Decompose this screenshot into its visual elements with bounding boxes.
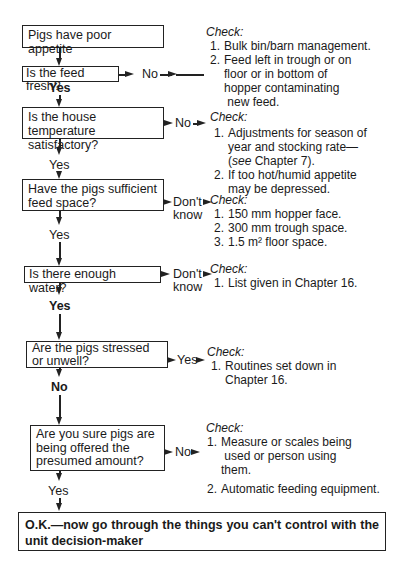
arrow-down-icon: [56, 473, 62, 481]
end-text: O.K.—now go through the things you can't…: [25, 518, 379, 548]
branch-label-no: No: [175, 117, 191, 130]
check-list-q5: Check: 1.Routines set down inChapter 16.: [207, 345, 402, 387]
arrow-right-icon: [196, 357, 205, 363]
check-list-q2: Check: 1.Adjustments for season ofyear a…: [210, 110, 402, 196]
continue-label-yes: Yes: [48, 485, 68, 498]
check-title: Check:: [210, 193, 402, 207]
check-item: 1.Adjustments for season ofyear and stoc…: [210, 126, 402, 168]
branch-label-yes: Yes: [177, 354, 197, 367]
continue-label-yes: Yes: [49, 229, 69, 242]
arrow-down-icon: [56, 217, 62, 225]
start-box: Pigs have poor appetite: [22, 25, 164, 48]
arrow-down-icon: [56, 287, 62, 295]
branch-label-dont-know: Don'tknow: [173, 268, 202, 294]
check-list-q6: Check: 1.Measure or scales being used or…: [203, 421, 403, 496]
arrow-right-icon: [197, 120, 206, 126]
arrow-right-icon: [125, 71, 134, 77]
continue-label-yes: Yes: [49, 300, 71, 313]
question-box-presumed-amount: Are you sure pigs arebeing offered thepr…: [30, 425, 165, 471]
check-title: Check:: [210, 110, 402, 124]
arrow-right-icon: [167, 357, 176, 363]
continue-label-yes: Yes: [49, 82, 71, 95]
check-item: 1.Bulk bin/barn management.: [206, 39, 401, 53]
question-box-water: Is there enough water?: [24, 266, 161, 283]
check-item: 2.Feed left in trough or onfloor or in b…: [206, 53, 401, 109]
branch-label-no: No: [142, 68, 158, 81]
check-item: 1.List given in Chapter 16.: [210, 276, 402, 290]
check-list-q3: Check: 1.150 mm hopper face. 2.300 mm tr…: [210, 193, 402, 249]
check-title: Check:: [207, 345, 402, 359]
connector-line: [176, 74, 204, 76]
arrow-down-icon: [56, 332, 62, 340]
arrow-down-icon: [56, 369, 62, 377]
end-box: O.K.—now go through the things you can't…: [18, 512, 386, 551]
check-item: 2.Automatic feeding equipment.: [203, 482, 403, 496]
connector-line: [59, 395, 61, 419]
arrow-right-icon: [191, 449, 200, 455]
start-text: Pigs have poor appetite: [28, 28, 111, 56]
arrow-down-icon: [56, 99, 62, 107]
check-item: 2.300 mm trough space.: [210, 221, 402, 235]
continue-label-no: No: [51, 381, 68, 394]
arrow-down-icon: [56, 503, 62, 511]
branch-label-no: No: [175, 446, 191, 459]
arrow-right-icon: [161, 271, 170, 277]
check-item: 1.Measure or scales being used or person…: [203, 435, 403, 477]
check-item: 1.Routines set down inChapter 16.: [207, 359, 402, 387]
connector-line: [59, 314, 61, 334]
check-title: Check:: [206, 25, 401, 39]
check-item: 3.1.5 m² floor space.: [210, 235, 402, 249]
question-box-temperature: Is the house temperaturesatisfactory?: [22, 107, 164, 139]
question-box-feed-fresh: Is the feed fresh?: [22, 66, 119, 82]
question-box-feed-space: Have the pigs sufficientfeed space?: [22, 179, 164, 211]
arrow-right-icon: [163, 199, 172, 205]
check-item: 2.If too hot/humid appetitemay be depres…: [210, 168, 402, 196]
branch-label-dont-know: Don'tknow: [173, 196, 202, 222]
check-item: 1.150 mm hopper face.: [210, 207, 402, 221]
arrow-down-icon: [56, 58, 62, 66]
arrow-down-icon: [56, 258, 62, 266]
arrow-down-icon: [56, 147, 62, 155]
arrow-right-icon: [164, 449, 173, 455]
arrow-right-icon: [164, 120, 173, 126]
check-title: Check:: [206, 421, 403, 435]
arrow-down-icon: [56, 171, 62, 179]
check-list-q4: Check: 1.List given in Chapter 16.: [210, 262, 402, 290]
question-box-stressed: Are the pigs stressedor unwell?: [26, 341, 168, 368]
check-title: Check:: [210, 262, 402, 276]
arrow-down-icon: [56, 417, 62, 425]
check-list-q1: Check: 1.Bulk bin/barn management. 2.Fee…: [206, 25, 401, 109]
